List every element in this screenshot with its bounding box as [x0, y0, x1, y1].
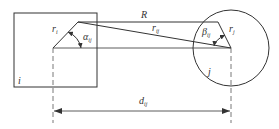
label-r-ij: rij	[152, 22, 160, 34]
label-i: i	[18, 75, 21, 86]
label-d-ij: dij	[139, 95, 148, 107]
label-R: R	[140, 9, 147, 20]
label-j: j	[206, 66, 211, 77]
alpha-angle-arc	[68, 32, 81, 48]
label-r-j: rj	[229, 23, 235, 35]
diagram-canvas: R ri αij rij βij rj i j dij	[0, 0, 279, 129]
label-alpha: αij	[83, 31, 92, 43]
beta-angle-arc	[214, 35, 225, 46]
label-beta: βij	[201, 26, 211, 38]
r-i-line	[53, 22, 78, 48]
label-r-i: ri	[52, 23, 58, 35]
